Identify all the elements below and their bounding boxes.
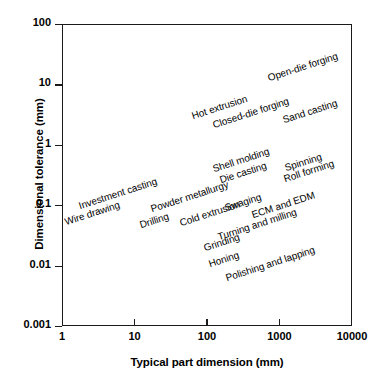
y-tick-mark <box>55 326 62 327</box>
y-tick-mark <box>55 205 62 206</box>
x-tick-label: 10 <box>95 330 175 342</box>
x-tick-label: 1000 <box>240 330 320 342</box>
y-tick-label: 0.001 <box>23 318 51 330</box>
x-axis-title: Typical part dimension (mm) <box>62 356 352 368</box>
y-tick-mark <box>55 145 62 146</box>
y-tick-label: 1 <box>45 137 51 149</box>
x-tick-mark <box>134 319 135 326</box>
y-axis-title: Dimensional tolerance (mm) <box>33 59 45 289</box>
x-tick-mark <box>279 319 280 326</box>
y-tick-mark <box>55 24 62 25</box>
y-tick-mark <box>55 84 62 85</box>
manufacturing-tolerance-chart: 1001010.10.010.001 110100100010000 Open-… <box>0 0 380 390</box>
x-tick-label: 10000 <box>312 330 380 342</box>
y-tick-mark <box>55 266 62 267</box>
x-tick-mark <box>206 319 207 326</box>
x-tick-label: 1 <box>22 330 102 342</box>
x-tick-label: 100 <box>167 330 247 342</box>
y-tick-label: 100 <box>33 16 51 28</box>
